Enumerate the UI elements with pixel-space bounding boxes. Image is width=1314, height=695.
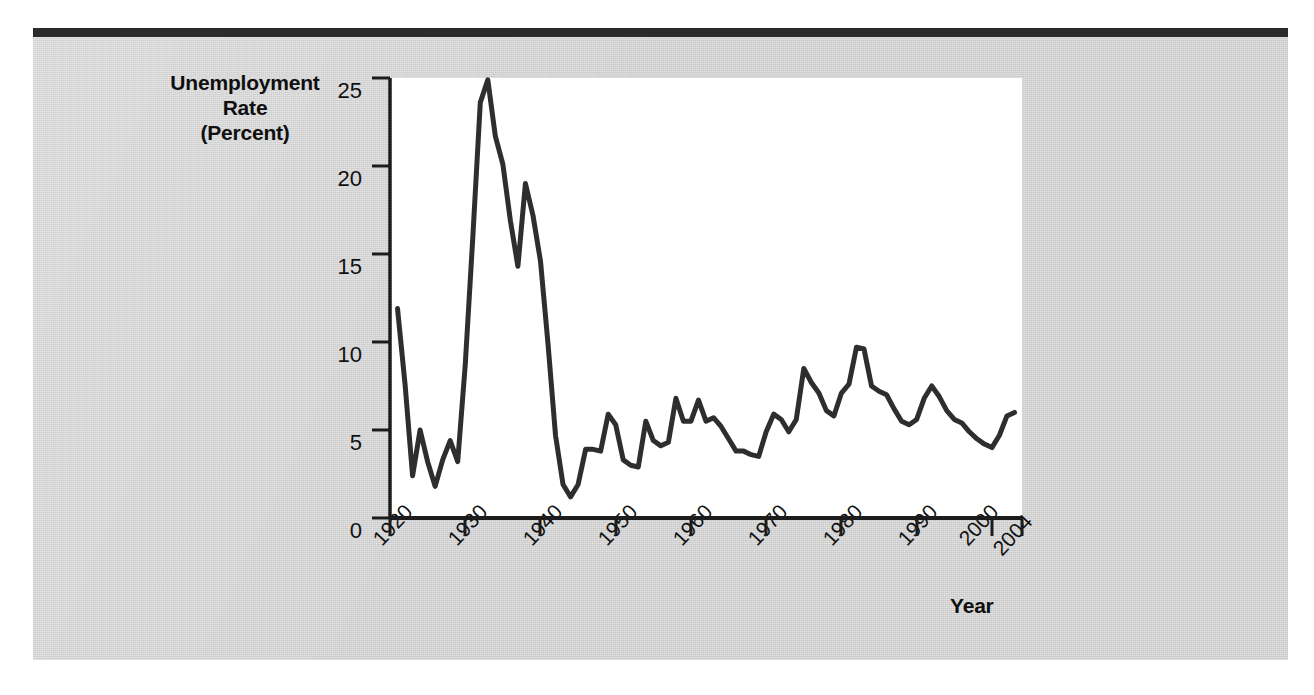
x-tick-marks xyxy=(390,518,1022,536)
unemployment-rate-line xyxy=(398,80,1015,497)
chart-page: Unemployment Rate (Percent) Year 0 5 10 … xyxy=(0,0,1314,695)
y-tick-marks xyxy=(372,78,390,518)
chart-svg xyxy=(0,0,1314,695)
